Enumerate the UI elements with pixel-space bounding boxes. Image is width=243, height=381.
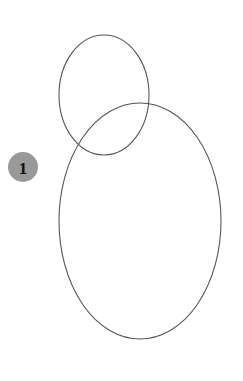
marker-1[interactable]: 1 <box>8 152 38 182</box>
small-ellipse[interactable] <box>59 35 149 155</box>
large-ellipse[interactable] <box>59 103 221 339</box>
shape-canvas-svg: 1 <box>0 0 243 381</box>
drawing-canvas: 1 <box>0 0 243 381</box>
marker-1-label: 1 <box>19 159 28 178</box>
